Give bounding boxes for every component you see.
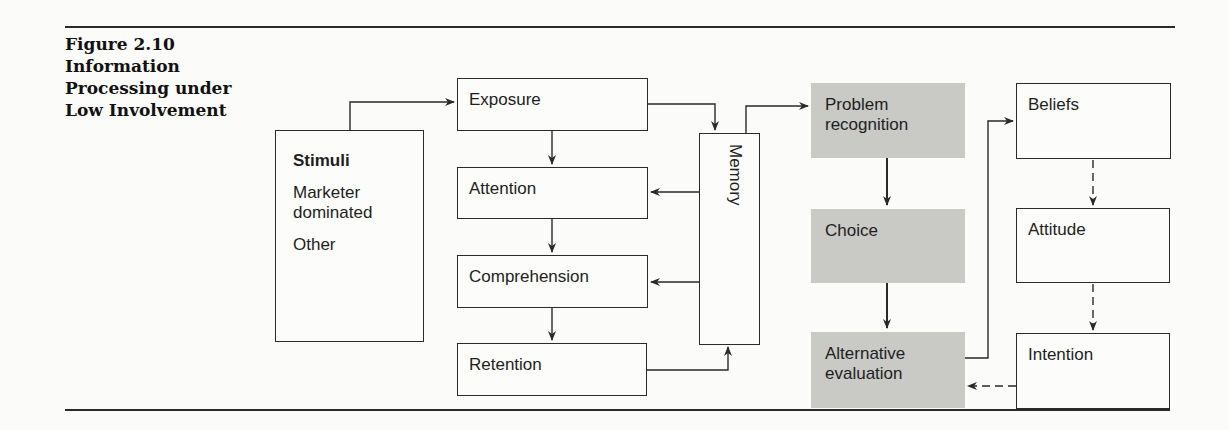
problem-recognition-box: Problem recognition (811, 83, 965, 158)
beliefs-box: Beliefs (1016, 83, 1171, 159)
attention-box: Attention (457, 167, 648, 219)
memory-label: Memory (725, 144, 745, 205)
choice-label: Choice (825, 221, 878, 241)
retention-box: Retention (457, 343, 647, 396)
attention-label: Attention (469, 179, 536, 199)
exposure-label: Exposure (469, 90, 541, 110)
attitude-box: Attitude (1016, 208, 1170, 283)
stimuli-other: Other (293, 235, 403, 255)
stimuli-marketer-dominated: Marketer dominated (293, 183, 403, 223)
problem-recognition-label: Problem recognition (825, 95, 945, 135)
exposure-box: Exposure (457, 78, 648, 131)
stimuli-title: Stimuli (293, 151, 403, 171)
intention-label: Intention (1028, 345, 1093, 365)
retention-label: Retention (469, 355, 542, 375)
beliefs-label: Beliefs (1028, 95, 1079, 115)
alternative-evaluation-box: Alternative evaluation (811, 332, 965, 408)
choice-box: Choice (811, 209, 965, 283)
comprehension-label: Comprehension (469, 267, 589, 287)
comprehension-box: Comprehension (457, 255, 648, 308)
intention-box: Intention (1016, 333, 1170, 409)
attitude-label: Attitude (1028, 220, 1086, 240)
stimuli-box: Stimuli Marketer dominated Other (275, 130, 424, 342)
alternative-evaluation-label: Alternative evaluation (825, 344, 935, 384)
memory-box: Memory (699, 133, 760, 345)
